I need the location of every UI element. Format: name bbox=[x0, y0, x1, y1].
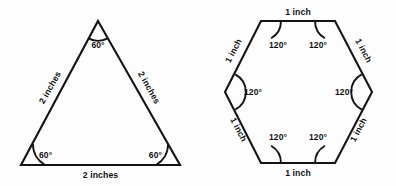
triangle-bottom-right-angle-label: 60° bbox=[149, 150, 163, 160]
hexagon-top-right-angle-arc bbox=[315, 21, 325, 38]
hexagon-top-left-angle-label: 120° bbox=[269, 40, 287, 50]
geometry-canvas: 60° 60° 60° 2 inches 2 inches 2 inches bbox=[0, 0, 396, 186]
geometry-figure: 60° 60° 60° 2 inches 2 inches 2 inches bbox=[0, 0, 396, 186]
hexagon-middle-right-angle-label: 120° bbox=[335, 87, 353, 97]
hexagon-top-side-label: 1 inch bbox=[285, 7, 311, 17]
hexagon-bottom-left-angle-arc bbox=[271, 146, 281, 163]
hexagon-lower-left-side-label: 1 inch bbox=[228, 116, 249, 143]
hexagon-top-left-angle-arc bbox=[271, 21, 281, 38]
regular-hexagon-group: 120° 120° 120° 120° 120° 120° 1 inch 1 i… bbox=[223, 7, 374, 178]
hexagon-bottom-left-angle-label: 120° bbox=[269, 132, 287, 142]
hexagon-top-right-angle-label: 120° bbox=[309, 40, 327, 50]
equilateral-triangle-group: 60° 60° 60° 2 inches 2 inches 2 inches bbox=[21, 21, 180, 180]
triangle-right-side-label: 2 inches bbox=[136, 70, 162, 106]
hexagon-bottom-right-angle-label: 120° bbox=[309, 132, 327, 142]
triangle-bottom-left-angle-label: 60° bbox=[39, 150, 53, 160]
triangle-apex-angle-label: 60° bbox=[91, 40, 105, 50]
triangle-bottom-side-label: 2 inches bbox=[83, 170, 119, 180]
hexagon-bottom-side-label: 1 inch bbox=[285, 168, 311, 178]
hexagon-lower-right-side-label: 1 inch bbox=[348, 116, 369, 143]
hexagon-bottom-right-angle-arc bbox=[315, 146, 325, 163]
hexagon-middle-left-angle-label: 120° bbox=[244, 87, 262, 97]
triangle-left-side-label: 2 inches bbox=[37, 70, 63, 106]
